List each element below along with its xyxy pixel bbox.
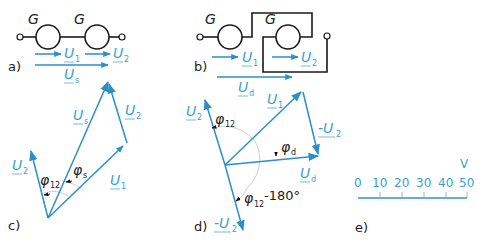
terminal-right bbox=[324, 33, 330, 39]
generator-1-label: G bbox=[205, 11, 216, 27]
svg-text:2: 2 bbox=[336, 130, 341, 139]
terminal-left bbox=[197, 34, 203, 40]
label-u2: U bbox=[186, 103, 196, 119]
panel-c-phasor-sum: U 2 U s U 1 U 2 φ 12 φ s c) bbox=[8, 82, 141, 233]
vector-ud bbox=[225, 156, 318, 165]
svg-text:d: d bbox=[291, 148, 296, 157]
label-us: U bbox=[73, 107, 83, 123]
vector-u2 bbox=[205, 100, 225, 165]
vector-us bbox=[48, 82, 108, 218]
svg-text:2: 2 bbox=[312, 59, 317, 68]
label-us: U bbox=[64, 66, 74, 82]
generator-1-symbol bbox=[218, 25, 242, 49]
generator-2-label: G bbox=[265, 11, 276, 27]
label-u2-left: U bbox=[12, 157, 22, 173]
phasor-diagram-figure: G G U 1 U 2 U s a) G G U 1 U 2 U bbox=[0, 0, 484, 242]
panel-c-label: c) bbox=[8, 218, 20, 233]
svg-text:12: 12 bbox=[50, 181, 60, 190]
svg-text:s: s bbox=[75, 76, 79, 85]
generator-2-label: G bbox=[74, 11, 85, 27]
svg-text:12: 12 bbox=[225, 120, 235, 129]
scale-tick-label: 50 bbox=[459, 176, 474, 190]
label-u1: U bbox=[242, 49, 252, 65]
svg-text:12: 12 bbox=[254, 200, 264, 209]
scale-tick-label: 0 bbox=[354, 176, 362, 190]
label-u2-right: U bbox=[125, 102, 135, 118]
angle-phi-d: φ bbox=[281, 139, 291, 155]
panel-d-phasor-difference: U 2 U 1 -U 2 U d -U 2 φ 12 φ d φ 12 -180… bbox=[186, 91, 341, 234]
svg-text:2: 2 bbox=[136, 112, 141, 121]
svg-text:1: 1 bbox=[75, 55, 80, 64]
panel-d-label: d) bbox=[194, 219, 207, 234]
angle-phi12-minus-180: φ bbox=[244, 190, 254, 206]
svg-text:2: 2 bbox=[124, 55, 129, 64]
panel-a-series-circuit: G G U 1 U 2 U s a) bbox=[8, 11, 129, 85]
angle-phi-s: φ bbox=[73, 162, 83, 178]
generator-1-symbol bbox=[36, 25, 60, 49]
svg-text:2: 2 bbox=[232, 225, 237, 234]
panel-b-series-opposing-circuit: G G U 1 U 2 U d b) bbox=[194, 11, 330, 98]
terminal-right bbox=[119, 34, 125, 40]
svg-text:1: 1 bbox=[253, 59, 258, 68]
scale-tick-label: 40 bbox=[438, 176, 453, 190]
label-u2: U bbox=[301, 49, 311, 65]
angle-phi12: φ bbox=[215, 111, 225, 127]
panel-e-voltage-scale: V 0 10 20 30 40 50 e) bbox=[354, 157, 474, 235]
panel-e-label: e) bbox=[355, 220, 368, 235]
scale-tick-label: 30 bbox=[416, 176, 431, 190]
svg-text:1: 1 bbox=[278, 101, 283, 110]
svg-text:d: d bbox=[249, 89, 254, 98]
label-u1: U bbox=[267, 91, 277, 107]
label-neg-u2-right: -U bbox=[318, 120, 333, 136]
svg-text:s: s bbox=[83, 171, 87, 180]
label-u1: U bbox=[110, 172, 120, 188]
label-u2: U bbox=[113, 45, 123, 61]
svg-text:1: 1 bbox=[121, 182, 126, 191]
svg-text:2: 2 bbox=[197, 113, 202, 122]
label-neg-u2-bottom: -U bbox=[214, 215, 229, 231]
angle-phi12: φ bbox=[40, 172, 50, 188]
vector-neg-u2-head-to-tail bbox=[303, 92, 318, 154]
svg-text:d: d bbox=[311, 175, 316, 184]
scale-tick-label: 10 bbox=[372, 176, 387, 190]
terminal-left bbox=[17, 34, 23, 40]
generator-2-symbol bbox=[85, 25, 109, 49]
scale-unit: V bbox=[460, 157, 469, 171]
generator-1-label: G bbox=[28, 11, 39, 27]
panel-b-label: b) bbox=[194, 59, 207, 74]
svg-text:-180°: -180° bbox=[264, 188, 300, 203]
label-ud: U bbox=[238, 79, 248, 95]
panel-a-label: a) bbox=[8, 59, 21, 74]
svg-text:2: 2 bbox=[23, 167, 28, 176]
label-ud: U bbox=[300, 165, 310, 181]
label-u1: U bbox=[64, 45, 74, 61]
scale-tick-label: 20 bbox=[394, 176, 409, 190]
generator-2-symbol bbox=[276, 25, 300, 49]
svg-text:s: s bbox=[84, 117, 88, 126]
